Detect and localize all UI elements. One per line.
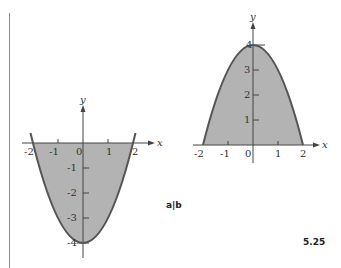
right-y-tick-label: 3: [244, 65, 250, 75]
left-x-axis-label: x: [157, 138, 163, 148]
panel-label: a|b: [166, 200, 182, 210]
left-x-tick-label: -2: [24, 147, 34, 157]
right-y-arrow-icon: [251, 22, 256, 29]
right-y-tick-label: 2: [244, 90, 250, 100]
left-x-tick-label: 1: [106, 147, 112, 157]
left-y-axis-label: y: [80, 95, 86, 105]
left-y-tick-label: -2: [67, 188, 77, 198]
right-y-tick-label: 1: [244, 115, 250, 125]
left-y-arrow-icon: [81, 105, 86, 112]
left-plot: [22, 105, 155, 258]
right-x-tick-label: 2: [300, 149, 306, 159]
left-y-tick-label: -3: [67, 213, 77, 223]
right-x-tick-label: 0: [245, 149, 251, 159]
left-y-tick-label: -1: [67, 163, 77, 173]
left-y-tick-label: -4: [67, 238, 77, 248]
right-x-tick-label: -2: [194, 149, 204, 159]
right-y-axis-label: y: [250, 12, 256, 22]
right-plot: [193, 22, 320, 163]
left-x-tick-label: 0: [76, 147, 82, 157]
right-x-arrow-icon: [313, 143, 320, 148]
right-x-axis-label: x: [322, 140, 328, 150]
right-y-tick-label: 4: [246, 40, 252, 50]
figure-number: 5.25: [303, 237, 325, 247]
figure-canvas: [0, 0, 341, 268]
left-x-arrow-icon: [148, 141, 155, 146]
right-x-tick-label: 1: [275, 149, 281, 159]
left-x-tick-label: -1: [49, 147, 59, 157]
left-x-tick-label: 2: [132, 147, 138, 157]
right-x-tick-label: -1: [220, 149, 230, 159]
